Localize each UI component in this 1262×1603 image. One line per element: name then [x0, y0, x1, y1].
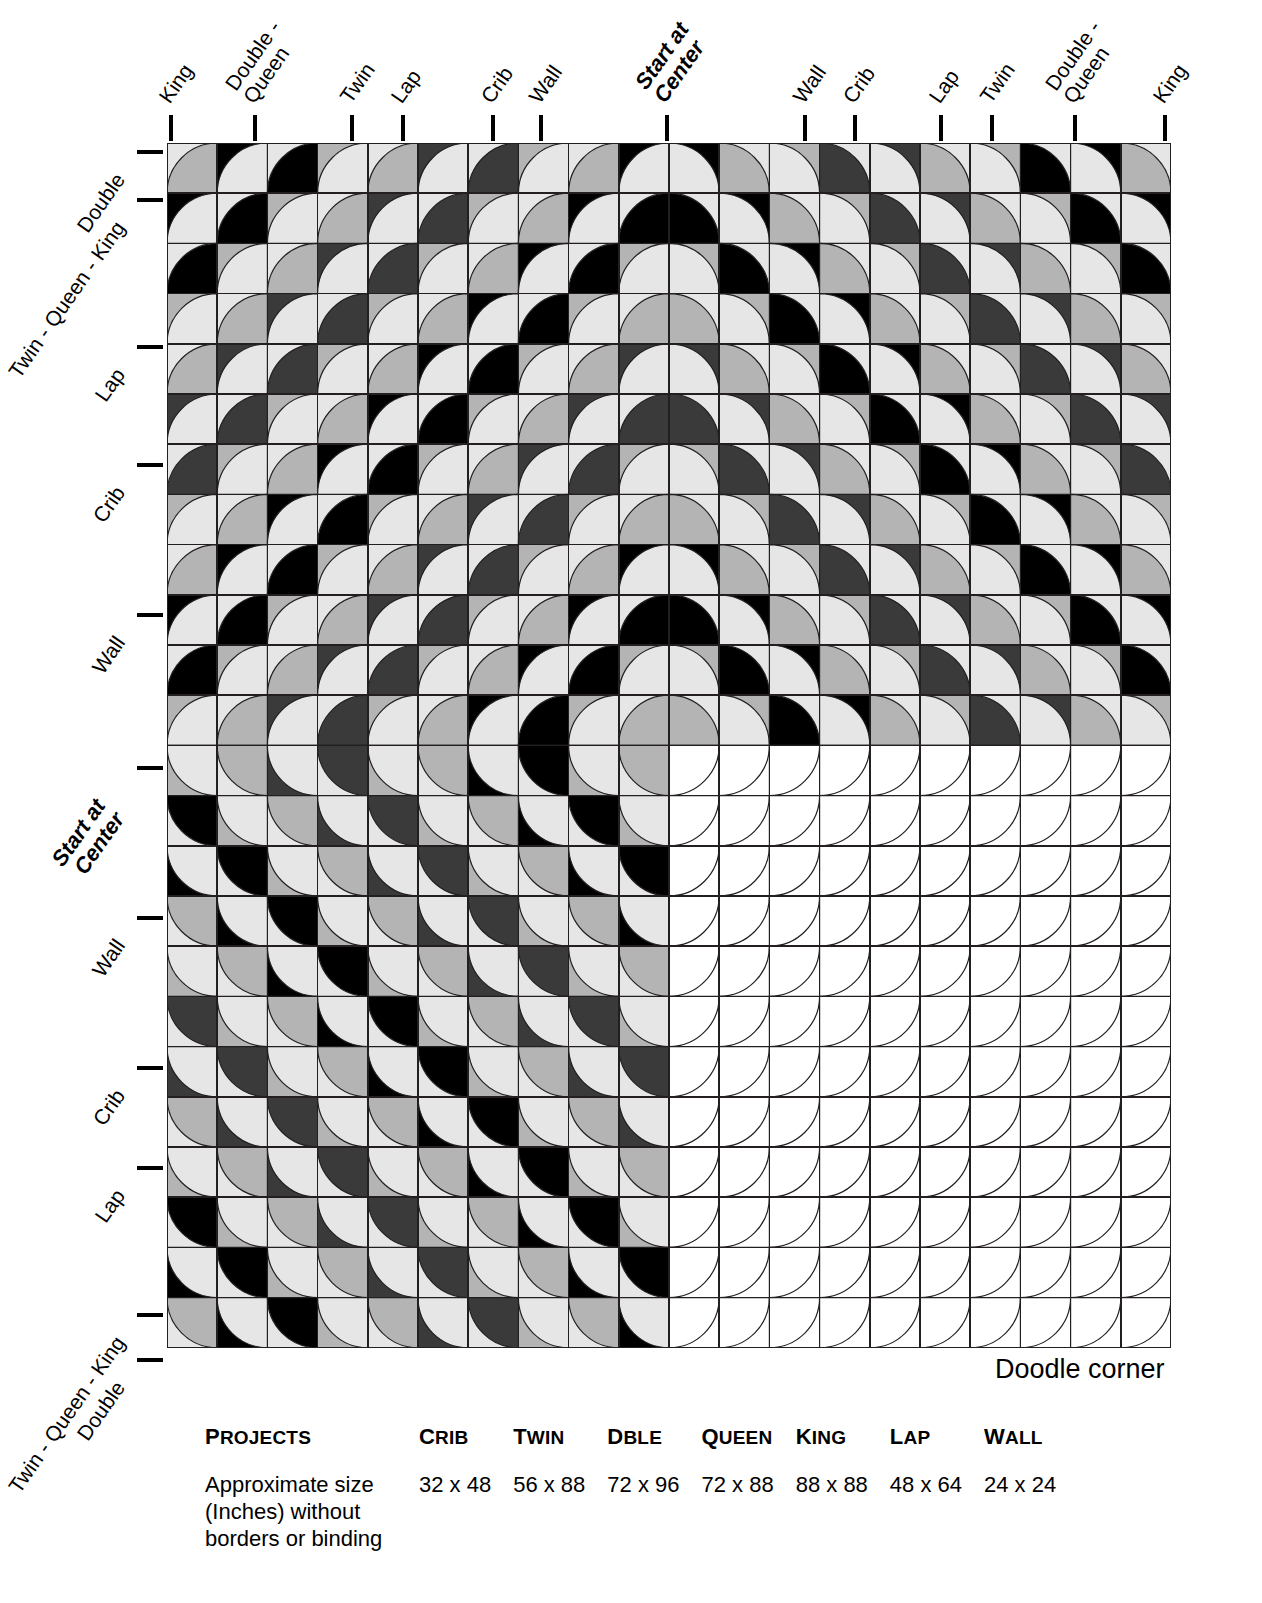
quilt-cell [1121, 344, 1171, 394]
quilt-cell [820, 595, 870, 645]
quilt-cell [719, 193, 769, 243]
quilt-cell [1071, 344, 1121, 394]
quilt-cell [970, 444, 1020, 494]
quilt-cell [970, 595, 1020, 645]
left-axis-label: Crib [89, 482, 129, 526]
quilt-cell [518, 344, 568, 394]
quilt-cell [769, 996, 819, 1046]
quilt-cell [267, 1047, 317, 1097]
quilt-cell [468, 545, 518, 595]
top-axis-label: Wall [789, 62, 830, 107]
quilt-cell [1071, 1147, 1121, 1197]
quilt-cell [1020, 796, 1070, 846]
quilt-cell [569, 444, 619, 494]
project-size-value: 56 x 88 [513, 1472, 607, 1552]
quilt-cell [669, 1298, 719, 1348]
quilt-cell [267, 645, 317, 695]
quilt-cell [217, 1298, 267, 1348]
quilt-cell [569, 294, 619, 344]
quilt-cell [368, 1247, 418, 1297]
quilt-cell [318, 394, 368, 444]
quilt-cell [619, 143, 669, 193]
quilt-cell [217, 896, 267, 946]
quilt-cell [669, 344, 719, 394]
quilt-cell [267, 1197, 317, 1247]
quilt-cell [769, 143, 819, 193]
quilt-cell [318, 1097, 368, 1147]
quilt-cell [719, 444, 769, 494]
quilt-cell [569, 1247, 619, 1297]
quilt-cell [569, 545, 619, 595]
left-axis-label: Crib [89, 1085, 129, 1129]
quilt-cell [518, 745, 568, 795]
quilt-cell [870, 796, 920, 846]
quilt-cell [318, 996, 368, 1046]
quilt-cell [719, 494, 769, 544]
quilt-cell [418, 595, 468, 645]
quilt-cell [167, 494, 217, 544]
quilt-cell [468, 1298, 518, 1348]
left-axis-tick [137, 1166, 163, 1170]
quilt-cell [518, 1097, 568, 1147]
quilt-cell [418, 896, 468, 946]
quilt-cell [569, 494, 619, 544]
quilt-cell [318, 846, 368, 896]
quilt-cell [1071, 695, 1121, 745]
quilt-cell [820, 946, 870, 996]
quilt-cell [518, 193, 568, 243]
quilt-cell [468, 444, 518, 494]
quilt-cell [669, 243, 719, 293]
quilt-cell [368, 745, 418, 795]
quilt-cell [920, 846, 970, 896]
quilt-cell [167, 1147, 217, 1197]
quilt-cell [970, 1298, 1020, 1348]
quilt-cell [719, 1047, 769, 1097]
quilt-cell [1071, 846, 1121, 896]
quilt-cell [217, 695, 267, 745]
quilt-cell [569, 1197, 619, 1247]
quilt-cell [870, 695, 920, 745]
project-size-value: 88 x 88 [796, 1472, 890, 1552]
quilt-cell [870, 595, 920, 645]
quilt-cell [318, 444, 368, 494]
quilt-cell [318, 595, 368, 645]
quilt-cell [719, 394, 769, 444]
quilt-cell [920, 645, 970, 695]
quilt-cell [769, 193, 819, 243]
quilt-cell [267, 494, 317, 544]
quilt-cell [870, 1097, 920, 1147]
quilt-cell [870, 444, 920, 494]
quilt-cell [167, 1197, 217, 1247]
top-axis-label: Wall [525, 62, 566, 107]
quilt-cell [920, 494, 970, 544]
quilt-cell [217, 1047, 267, 1097]
quilt-cell [318, 193, 368, 243]
quilt-cell [267, 344, 317, 394]
quilt-cell [217, 344, 267, 394]
quilt-cell [769, 1247, 819, 1297]
quilt-cell [970, 796, 1020, 846]
left-axis-label: Wall [88, 632, 129, 677]
quilt-cell [1121, 1097, 1171, 1147]
quilt-cell [418, 143, 468, 193]
top-axis-label: Lap [387, 66, 425, 107]
quilt-cell [920, 1298, 970, 1348]
quilt-cell [1121, 745, 1171, 795]
quilt-cell [569, 595, 619, 645]
quilt-cell [920, 143, 970, 193]
quilt-cell [870, 494, 920, 544]
quilt-cell [870, 1247, 920, 1297]
quilt-cell [920, 1247, 970, 1297]
quilt-cell [167, 695, 217, 745]
quilt-cell [669, 1047, 719, 1097]
quilt-cell [569, 946, 619, 996]
left-axis-tick [137, 916, 163, 920]
quilt-cell [1121, 193, 1171, 243]
quilt-cell [267, 444, 317, 494]
quilt-cell [1121, 896, 1171, 946]
quilt-cell [619, 946, 669, 996]
quilt-cell [1020, 946, 1070, 996]
quilt-cell [920, 394, 970, 444]
quilt-cell [418, 796, 468, 846]
quilt-cell [970, 545, 1020, 595]
